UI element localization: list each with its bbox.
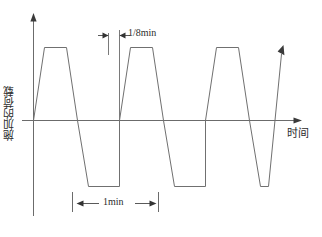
rise-time-arrowhead-left-icon	[103, 33, 109, 39]
x-axis-label: 时间	[287, 128, 309, 139]
rise-time-annotation-label: 1/8min	[128, 28, 156, 38]
rise-time-dimension-group	[98, 33, 130, 39]
y-axis-group	[30, 13, 36, 216]
rise-time-arrowhead-right-icon	[120, 33, 126, 39]
load-time-waveform-figure: 施加的荷载 时间 1/8min 1min	[0, 0, 322, 237]
period-annotation-label: 1min	[103, 197, 124, 207]
y-axis-label: 施加的荷载	[4, 86, 15, 141]
rise-time-guides-group	[109, 30, 120, 120]
waveform-plot-svg	[0, 0, 322, 237]
x-axis-arrowhead-icon	[294, 117, 303, 123]
waveform-group	[34, 45, 285, 187]
x-axis-group	[22, 117, 302, 123]
waveform-end-arrowhead-icon	[278, 45, 285, 55]
period-arrowhead-right-icon	[150, 200, 157, 206]
period-arrowhead-left-icon	[77, 200, 84, 206]
y-axis-arrowhead-icon	[30, 13, 36, 22]
applied-load-waveform-path	[34, 48, 282, 187]
